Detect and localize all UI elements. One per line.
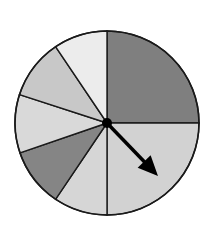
spinner-figure <box>0 0 211 239</box>
spinner-wheel <box>0 0 211 239</box>
spinner-hub <box>102 118 112 128</box>
sector-top-right-quarter <box>107 31 199 123</box>
